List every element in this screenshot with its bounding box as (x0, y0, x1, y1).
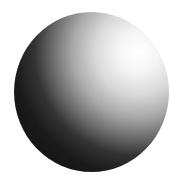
shaded-sphere (14, 12, 169, 172)
